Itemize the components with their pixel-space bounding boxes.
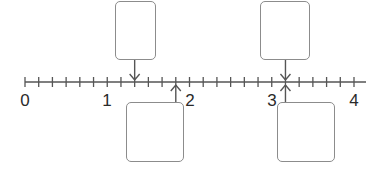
arrow-down-icon	[130, 60, 140, 80]
tick-label-2: 2	[185, 92, 194, 109]
tick-label-4: 4	[349, 92, 358, 109]
number-line-diagram: 0 1 2 3 4	[0, 0, 381, 173]
arrow-up-icon	[280, 85, 290, 102]
answer-box-bottom-left[interactable]	[126, 102, 184, 162]
answer-box-bottom-right[interactable]	[277, 102, 335, 162]
tick-label-0: 0	[20, 92, 29, 109]
tick-label-1: 1	[102, 92, 111, 109]
answer-box-top-left[interactable]	[115, 1, 156, 60]
arrow-down-icon	[280, 60, 290, 80]
answer-box-top-right[interactable]	[260, 1, 310, 60]
arrow-up-icon	[171, 85, 181, 102]
tick-label-3: 3	[267, 92, 276, 109]
